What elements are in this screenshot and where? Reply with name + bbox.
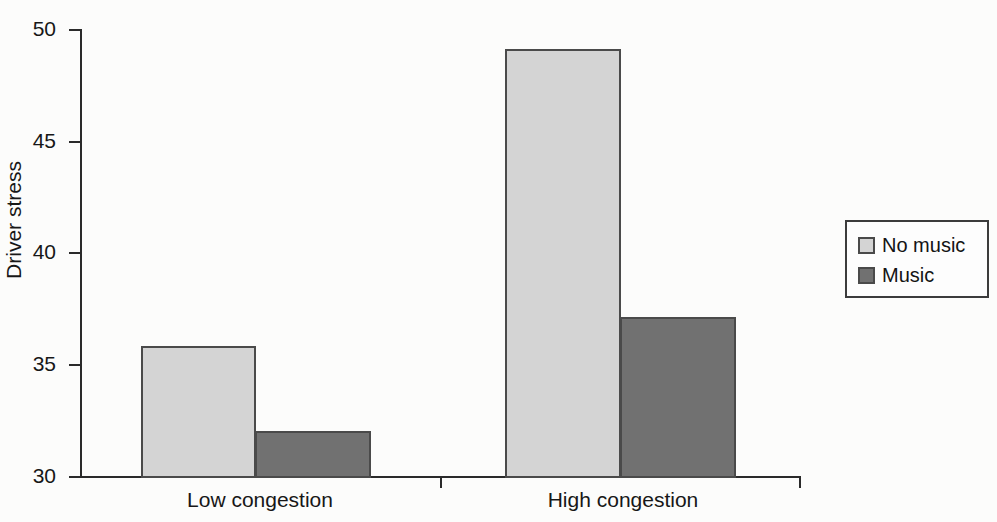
bar-chart-figure: 50 45 40 35 30 Driver stress Low congest… [0,0,997,522]
x-axis-group-label-low-congestion: Low congestion [150,489,370,510]
y-axis-tick-45 [69,141,80,143]
legend-item-no-music: No music [858,230,987,260]
y-axis-line [80,29,82,477]
chart-legend: No music Music [845,220,989,298]
x-axis-tick-separator [440,476,442,488]
bar-high-congestion-no-music [505,49,621,478]
legend-label-music: Music [882,265,934,285]
y-axis-label-50: 50 [8,18,56,39]
bar-low-congestion-music [255,431,371,478]
x-axis-tick-end [799,476,801,488]
y-axis-label-35: 35 [8,353,56,374]
legend-swatch-icon-no-music [858,237,875,254]
y-axis-tick-40 [69,252,80,254]
y-axis-tick-35 [69,364,80,366]
bar-low-congestion-no-music [141,346,256,478]
legend-item-music: Music [858,260,987,290]
y-axis-tick-50 [69,29,80,31]
x-axis-group-label-high-congestion: High congestion [510,489,736,510]
y-axis-label-30: 30 [8,465,56,486]
bar-high-congestion-music [620,317,736,478]
y-axis-title: Driver stress [2,120,26,320]
legend-swatch-icon-music [858,267,875,284]
legend-label-no-music: No music [882,235,965,255]
y-axis-tick-30 [69,476,80,478]
